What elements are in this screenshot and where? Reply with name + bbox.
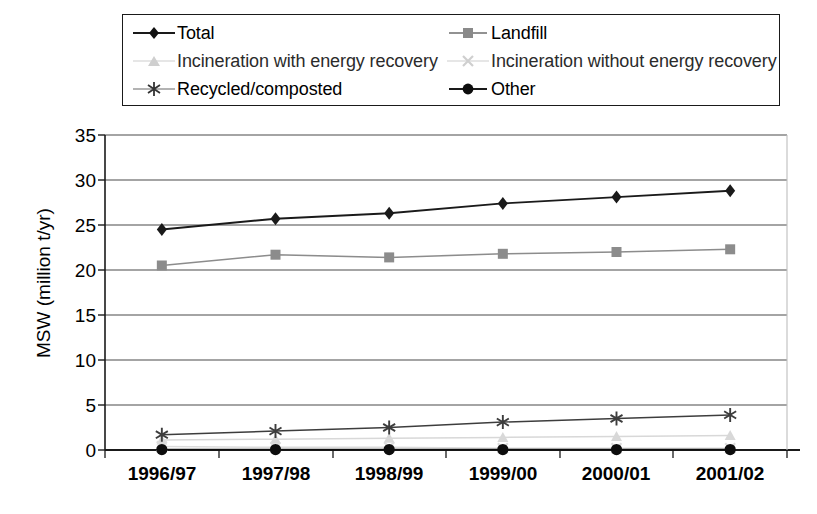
triangle-marker-icon — [131, 51, 177, 71]
x-tick-2000-01: 2000/01 — [556, 464, 676, 483]
diamond-marker-icon — [725, 184, 735, 197]
diamond-marker-icon — [131, 23, 177, 43]
x-tick-2001-02: 2001/02 — [670, 464, 790, 483]
legend-item-incineration-without-energy-recovery: Incineration without energy recovery — [441, 47, 773, 75]
x-tick-1998-99: 1998/99 — [329, 464, 449, 483]
legend-label-incineration-with: Incineration with energy recovery — [177, 51, 438, 71]
legend-row-1: Total Landfill — [123, 19, 779, 47]
circle-marker-icon — [156, 444, 167, 455]
x-tick-marks — [105, 450, 787, 458]
square-marker-icon — [725, 244, 735, 254]
diamond-marker-icon — [271, 212, 281, 225]
series-landfill — [157, 244, 735, 270]
cross-marker-icon — [445, 51, 491, 71]
square-marker-icon — [445, 23, 491, 43]
square-marker-icon — [157, 261, 167, 271]
chart-legend: Total Landfill — [122, 14, 780, 106]
legend-item-total: Total — [123, 19, 441, 47]
circle-marker-icon — [725, 444, 736, 455]
axis-lines — [105, 135, 800, 450]
legend-row-3: Recycled/composted Other — [123, 75, 779, 103]
legend-label-recycled-composted: Recycled/composted — [177, 79, 342, 99]
circle-marker-icon — [611, 444, 622, 455]
x-tick-1999-00: 1999/00 — [443, 464, 563, 483]
chart-plot-area: MSW (million t/yr) 35 30 25 20 15 10 5 0 — [0, 112, 817, 514]
square-marker-icon — [612, 247, 622, 257]
series-total — [157, 184, 735, 236]
square-marker-icon — [498, 249, 508, 259]
legend-item-incineration-with-energy-recovery: Incineration with energy recovery — [123, 47, 441, 75]
legend-item-recycled-composted: Recycled/composted — [123, 75, 441, 103]
legend-label-total: Total — [177, 23, 215, 43]
chart-svg — [0, 112, 817, 514]
circle-marker-icon — [270, 444, 281, 455]
legend-item-other: Other — [441, 75, 773, 103]
asterisk-marker-icon — [131, 79, 177, 99]
chart-figure: Total Landfill — [0, 0, 817, 514]
x-tick-1996-97: 1996/97 — [102, 464, 222, 483]
diamond-marker-icon — [384, 207, 394, 220]
diamond-marker-icon — [498, 197, 508, 210]
legend-item-landfill: Landfill — [441, 19, 773, 47]
legend-row-2: Incineration with energy recovery Incine… — [123, 47, 779, 75]
legend-label-other: Other — [491, 79, 536, 99]
square-marker-icon — [384, 252, 394, 262]
legend-label-incineration-without: Incineration without energy recovery — [491, 51, 777, 71]
circle-marker-icon — [445, 79, 491, 99]
circle-marker-icon — [384, 444, 395, 455]
legend-label-landfill: Landfill — [491, 23, 547, 43]
square-marker-icon — [271, 250, 281, 260]
circle-marker-icon — [497, 444, 508, 455]
y-tick-marks — [98, 135, 105, 450]
diamond-marker-icon — [612, 191, 622, 204]
grid-lines — [105, 135, 787, 405]
x-tick-1997-98: 1997/98 — [216, 464, 336, 483]
